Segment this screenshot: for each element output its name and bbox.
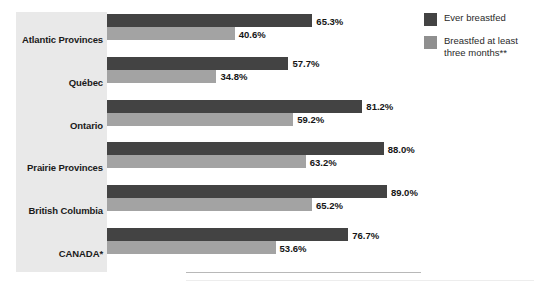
bar-1 (107, 113, 293, 126)
bar-0 (107, 14, 312, 27)
bar-value-label: 59.2% (297, 114, 324, 125)
bar-value-label: 53.6% (280, 242, 307, 253)
bar-0 (107, 228, 348, 241)
bar-0 (107, 142, 384, 155)
category-label: Ontario (0, 119, 103, 130)
bar-value-label: 57.7% (292, 58, 319, 69)
category-label: Atlantic Provinces (0, 34, 103, 45)
bar-value-label: 81.2% (366, 101, 393, 112)
bar-value-label: 88.0% (388, 143, 415, 154)
bar-value-label: 65.3% (316, 15, 343, 26)
category-label-panel: Atlantic ProvincesQuébecOntarioPrairie P… (16, 12, 107, 272)
bar-1 (107, 198, 312, 211)
bar-chart: Atlantic ProvincesQuébecOntarioPrairie P… (0, 0, 534, 286)
chart-legend: Ever breastfedBreastfed at least three m… (424, 12, 530, 67)
legend-item[interactable]: Breastfed at least three months** (424, 35, 530, 58)
category-label: Québec (0, 76, 103, 87)
bar-value-label: 34.8% (220, 71, 247, 82)
bar-1 (107, 155, 306, 168)
baseline-rule (186, 272, 421, 273)
bar-value-label: 76.7% (352, 229, 379, 240)
bar-value-label: 65.2% (316, 199, 343, 210)
category-label: Prairie Provinces (0, 162, 103, 173)
legend-swatch-icon (424, 13, 437, 26)
legend-item[interactable]: Ever breastfed (424, 12, 530, 26)
legend-label: Breastfed at least three months** (444, 35, 530, 58)
legend-swatch-icon (424, 36, 437, 49)
bar-0 (107, 185, 387, 198)
bar-1 (107, 27, 235, 40)
bar-value-label: 89.0% (391, 186, 418, 197)
category-label: CANADA* (0, 248, 103, 259)
bar-value-label: 63.2% (310, 156, 337, 167)
bar-1 (107, 70, 216, 83)
category-label: British Columbia (0, 205, 103, 216)
bar-value-label: 40.6% (239, 28, 266, 39)
bar-0 (107, 57, 288, 70)
baseline-rule-secondary (186, 280, 534, 281)
bar-1 (107, 241, 276, 254)
bar-0 (107, 100, 362, 113)
legend-label: Ever breastfed (444, 12, 506, 24)
